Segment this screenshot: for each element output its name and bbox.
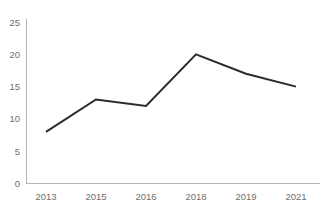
y-tick-label: 5 [15, 146, 20, 157]
x-tick-label: 2019 [235, 191, 256, 202]
y-tick-label: 15 [9, 81, 20, 92]
chart-background [0, 0, 327, 214]
x-tick-label: 2018 [185, 191, 206, 202]
chart-canvas: 25 20 15 10 5 0 2013 2015 2016 2018 2019… [0, 0, 327, 214]
y-tick-label: 25 [9, 17, 20, 28]
y-tick-label: 0 [15, 178, 20, 189]
x-tick-label: 2021 [285, 191, 306, 202]
y-tick-label: 10 [9, 113, 20, 124]
x-tick-label: 2013 [35, 191, 56, 202]
line-chart: 25 20 15 10 5 0 2013 2015 2016 2018 2019… [0, 0, 327, 214]
x-tick-label: 2015 [85, 191, 106, 202]
y-tick-label: 20 [9, 49, 20, 60]
x-tick-label: 2016 [135, 191, 156, 202]
